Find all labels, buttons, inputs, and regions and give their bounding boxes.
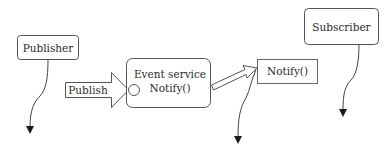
- subscriber-node: Subscriber: [305, 9, 379, 45]
- interface-port-icon: [129, 85, 140, 96]
- arrowhead-down-icon: [339, 109, 347, 117]
- subscriber-flow-connector: [339, 45, 359, 117]
- publisher-curve-line: [30, 60, 48, 127]
- notify-flow-connector: [234, 70, 256, 144]
- pubsub-diagram: Publisher Publish Event service Notify()…: [0, 0, 392, 148]
- event-service-method: Notify(): [149, 82, 190, 94]
- notify-node: Notify(): [258, 60, 318, 84]
- publish-arrow: Publish: [66, 73, 129, 108]
- notify-curve-line: [238, 70, 256, 137]
- arrowhead-down-icon: [26, 126, 34, 134]
- notify-label: Notify(): [267, 65, 308, 77]
- arrowhead-down-icon: [234, 136, 242, 144]
- event-service-title: Event service: [134, 68, 206, 80]
- publisher-node: Publisher: [18, 36, 79, 60]
- publisher-flow-connector: [26, 60, 48, 134]
- subscriber-label: Subscriber: [312, 21, 371, 33]
- subscriber-curve-line: [343, 45, 359, 110]
- publish-label: Publish: [68, 84, 108, 96]
- event-service-node: Event service Notify(): [127, 59, 211, 108]
- publisher-label: Publisher: [23, 42, 75, 54]
